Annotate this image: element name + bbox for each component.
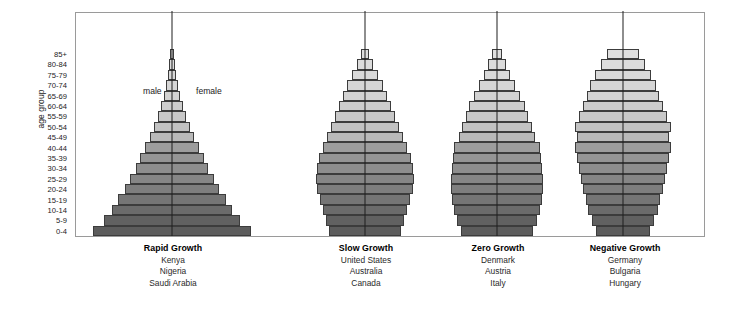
bar-male [145, 142, 172, 152]
bar-male [588, 205, 623, 215]
bar-female [365, 59, 373, 69]
bar-female [172, 80, 178, 90]
bar-female [623, 174, 665, 184]
bar-female [623, 142, 671, 152]
caption-title: Negative Growth [555, 243, 695, 254]
age-tick-30to34: 30-34 [48, 165, 67, 173]
bar-female [623, 122, 671, 132]
age-tick-35to39: 35-39 [48, 155, 67, 163]
bar-male [454, 205, 497, 215]
bar-male [335, 111, 365, 121]
bar-female [172, 101, 183, 111]
caption-country: Bulgaria [555, 266, 695, 277]
bar-female [172, 153, 204, 163]
bar-male [327, 132, 365, 142]
bar-male [479, 80, 497, 90]
bar-male [352, 70, 365, 80]
caption-country: Denmark [428, 255, 568, 266]
age-tick-85plus: 85+ [54, 51, 67, 59]
caption-country: Kenya [97, 255, 249, 266]
bar-male [316, 174, 365, 184]
bar-female [365, 184, 413, 194]
bar-female [365, 142, 407, 152]
bar-male [319, 153, 365, 163]
center-axis-line [623, 11, 624, 236]
bar-female [172, 122, 190, 132]
age-group-tick-labels: 85+80-8475-7970-7465-6960-6455-5950-5445… [0, 12, 71, 237]
age-tick-60to64: 60-64 [48, 103, 67, 111]
bar-female [623, 132, 669, 142]
bar-female [497, 215, 537, 225]
bar-female [172, 132, 194, 142]
bar-male [347, 80, 365, 90]
caption-country: Austria [428, 266, 568, 277]
bar-female [497, 194, 542, 204]
bar-male [453, 153, 497, 163]
bar-male [158, 111, 172, 121]
caption-country: Italy [428, 278, 568, 289]
bar-male [575, 142, 623, 152]
age-tick-20to24: 20-24 [48, 186, 67, 194]
bar-male [575, 122, 623, 132]
bar-male [607, 49, 623, 59]
bar-male [583, 101, 623, 111]
male-label: male [143, 86, 162, 96]
bar-female [623, 163, 667, 173]
bar-male [469, 101, 497, 111]
bar-male [323, 205, 365, 215]
age-tick-0to4: 0-4 [56, 228, 67, 236]
pyramid-negative-growth [575, 11, 671, 236]
bar-female [172, 91, 180, 101]
bar-female [623, 101, 663, 111]
bar-female [172, 215, 240, 225]
bar-male [118, 194, 172, 204]
bar-male [577, 132, 623, 142]
bar-female [497, 184, 543, 194]
bar-male [150, 132, 172, 142]
bar-male [451, 174, 497, 184]
bar-female [623, 215, 654, 225]
bar-male [317, 184, 365, 194]
bar-female [365, 215, 404, 225]
bar-male [457, 215, 497, 225]
bar-male [579, 163, 623, 173]
bar-male [329, 226, 365, 236]
center-axis-line [497, 11, 498, 236]
bar-female [365, 163, 413, 173]
bar-female [623, 59, 645, 69]
caption-country: Saudi Arabia [97, 278, 249, 289]
caption-negative-growth: Negative GrowthGermanyBulgariaHungary [555, 243, 695, 289]
pyramid-rapid-growth [93, 11, 251, 236]
bar-female [497, 226, 533, 236]
bar-female [172, 174, 214, 184]
bar-female [497, 80, 515, 90]
bar-female [172, 163, 208, 173]
caption-zero-growth: Zero GrowthDenmarkAustriaItaly [428, 243, 568, 289]
bar-male [93, 226, 172, 236]
age-tick-25to29: 25-29 [48, 176, 67, 184]
age-tick-10to14: 10-14 [48, 207, 67, 215]
bar-male [140, 153, 172, 163]
bar-female [497, 101, 525, 111]
age-tick-45to49: 45-49 [48, 134, 67, 142]
age-tick-5to9: 5-9 [56, 217, 67, 225]
bar-female [365, 174, 414, 184]
bar-female [497, 174, 543, 184]
bar-female [623, 49, 639, 59]
bar-male [474, 91, 497, 101]
bar-female [497, 163, 542, 173]
bar-male [317, 163, 365, 173]
caption-title: Slow Growth [296, 243, 436, 254]
bar-male [459, 132, 497, 142]
center-axis-line [365, 11, 366, 236]
bar-male [583, 184, 623, 194]
bar-male [461, 226, 497, 236]
bar-male [581, 174, 623, 184]
bar-female [497, 122, 532, 132]
bar-male [452, 194, 497, 204]
age-tick-15to19: 15-19 [48, 197, 67, 205]
bar-female [365, 122, 399, 132]
bar-female [623, 205, 658, 215]
pyramid-slow-growth [316, 11, 414, 236]
bar-female [497, 111, 528, 121]
